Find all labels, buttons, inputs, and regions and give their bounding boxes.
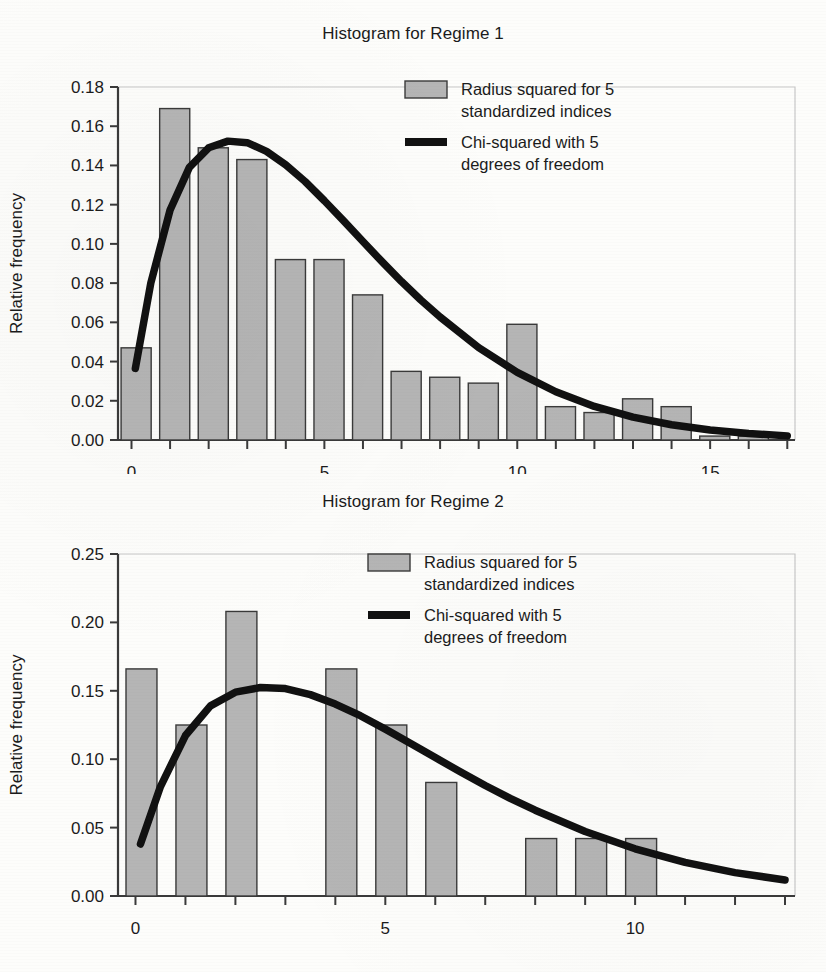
legend: Radius squared for 5standardized indices… [368,553,577,646]
histogram-bar [198,148,228,440]
chart-title-regime-2: Histogram for Regime 2 [0,480,826,512]
x-tick-label: 10 [508,463,527,474]
y-tick-label: 0.15 [71,682,104,701]
figure-regime-2: Histogram for Regime 2 0.000.050.100.150… [0,480,826,972]
y-tick-label: 0.25 [71,545,104,564]
histogram-bar [376,725,407,896]
x-tick-label: 0 [127,463,136,474]
legend-label-curve-line1: Chi-squared with 5 [424,606,562,624]
y-tick-label: 0.20 [71,613,104,632]
figure-regime-1: Histogram for Regime 1 0.000.020.040.060… [0,0,826,492]
y-tick-label: 0.00 [71,887,104,906]
y-tick-label: 0.16 [71,117,104,136]
plot-area-regime-1: 0.000.020.040.060.080.100.120.140.160.18… [0,44,826,474]
bar-group [121,109,768,440]
legend-label-bars-line1: Radius squared for 5 [461,80,614,98]
histogram-bar [160,109,190,440]
histogram-bar [237,160,267,440]
y-tick-label: 0.04 [71,353,104,372]
chi-squared-curve [135,141,787,436]
histogram-bar [314,260,344,440]
x-tick-label: 15 [701,463,720,474]
legend-label-curve-line1: Chi-squared with 5 [461,133,599,151]
plot-area-regime-2: 0.000.050.100.150.200.250510Relative fre… [0,512,826,952]
y-axis-label: Relative frequency [7,654,26,795]
y-tick-label: 0.02 [71,392,104,411]
legend-label-curve-line2: degrees of freedom [424,628,567,646]
x-tick-label: 10 [626,919,645,938]
y-tick-label: 0.10 [71,235,104,254]
histogram-bar [576,839,607,896]
x-tick-label: 5 [381,919,390,938]
x-tick-label: 0 [131,919,140,938]
legend-bar-swatch [368,554,410,571]
y-tick-label: 0.12 [71,196,104,215]
y-tick-label: 0.10 [71,750,104,769]
histogram-bar [391,371,421,440]
y-tick-label: 0.06 [71,313,104,332]
histogram-bar [545,407,575,440]
y-tick-label: 0.18 [71,78,104,97]
histogram-bar [126,669,157,896]
histogram-bar [275,260,305,440]
legend-label-bars-line1: Radius squared for 5 [424,553,577,571]
legend-bar-swatch [405,81,447,98]
legend-label-bars-line2: standardized indices [461,102,611,120]
histogram-bar [584,413,614,440]
histogram-bar [353,295,383,440]
histogram-bar [526,839,557,896]
legend-label-curve-line2: degrees of freedom [461,155,604,173]
histogram-svg-regime-2: 0.000.050.100.150.200.250510Relative fre… [0,512,826,952]
y-tick-label: 0.00 [71,431,104,450]
y-axis-label: Relative frequency [7,193,26,334]
x-tick-label: 5 [320,463,329,474]
histogram-bar [430,377,460,440]
bar-group [126,611,657,896]
y-tick-label: 0.05 [71,819,104,838]
y-tick-label: 0.14 [71,156,104,175]
histogram-bar [700,436,730,440]
histogram-bar [426,782,457,896]
histogram-bar [468,383,498,440]
legend: Radius squared for 5standardized indices… [405,80,614,173]
chart-title-regime-1: Histogram for Regime 1 [0,0,826,44]
histogram-bar [226,611,257,896]
histogram-svg-regime-1: 0.000.020.040.060.080.100.120.140.160.18… [0,44,826,474]
y-tick-label: 0.08 [71,274,104,293]
legend-label-bars-line2: standardized indices [424,575,574,593]
